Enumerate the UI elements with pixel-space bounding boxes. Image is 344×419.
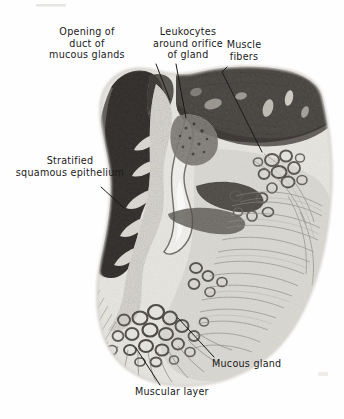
label-stratified-squamous-epithelium: Stratified squamous epithelium [8,155,132,178]
label-opening-of-duct-of-mucous-glands: Opening of duct of mucous glands [22,26,152,61]
histology-figure: Opening of duct of mucous glands Leukocy… [0,0,344,419]
label-muscle-fibers: Muscle fibers [216,39,272,62]
label-muscular-layer: Muscular layer [135,386,227,398]
specimen-image [0,0,344,419]
label-mucous-gland: Mucous gland [212,358,298,370]
